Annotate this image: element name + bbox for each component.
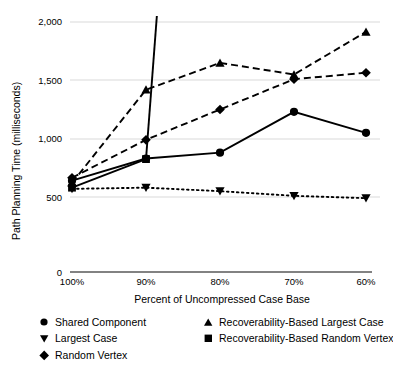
x-tick-80: 80%	[210, 276, 230, 287]
data-point-3-4	[361, 28, 370, 36]
data-point-4-0	[68, 184, 76, 192]
legend-item-random-vertex[interactable]: Random Vertex	[39, 349, 128, 361]
y-tick-1500: 1,500	[38, 75, 62, 86]
data-point-0-3	[290, 108, 298, 116]
legend-item-shared-component[interactable]: Shared Component	[40, 316, 146, 328]
x-axis-tick-labels: 100% 90% 80% 70% 60%	[60, 276, 376, 287]
series-line-4	[72, 159, 146, 188]
series-line-2	[72, 73, 366, 178]
legend-label-0: Shared Component	[55, 316, 146, 328]
x-tick-60: 60%	[356, 276, 376, 287]
data-point-0-2	[216, 149, 224, 157]
x-tick-100: 100%	[60, 276, 85, 287]
legend-item-largest-case[interactable]: Largest Case	[40, 332, 118, 344]
y-tick-500: 500	[46, 192, 62, 203]
data-point-2-4	[361, 68, 371, 78]
legend-label-4: Random Vertex	[55, 349, 128, 361]
y-axis-title: Path Planning Time (milliseconds)	[10, 82, 22, 240]
triangle-up-marker-icon	[204, 318, 212, 325]
legend-label-3: Recoverability-Based Random Vertex	[219, 332, 393, 344]
triangle-down-marker-icon	[40, 335, 48, 342]
data-point-2-1	[141, 135, 151, 145]
x-axis-title: Percent of Uncompressed Case Base	[134, 293, 310, 305]
legend-label-2: Largest Case	[55, 332, 118, 344]
y-axis-tick-labels: 2,000 1,500 1,000 500 0	[38, 16, 62, 278]
data-point-4-1	[142, 155, 150, 163]
diamond-marker-icon	[39, 351, 49, 361]
legend-item-recoverability-based-random-vertex[interactable]: Recoverability-Based Random Vertex	[205, 332, 393, 344]
x-tick-70: 70%	[284, 276, 304, 287]
chart-svg: 2,000 1,500 1,000 500 0 Path Planning Ti…	[0, 0, 393, 372]
legend-item-recoverability-based-largest-case[interactable]: Recoverability-Based Largest Case	[204, 316, 384, 328]
chart-figure: 2,000 1,500 1,000 500 0 Path Planning Ti…	[0, 0, 393, 372]
x-tick-90: 90%	[136, 276, 156, 287]
marker-layer	[67, 28, 371, 203]
legend-label-1: Recoverability-Based Largest Case	[219, 316, 384, 328]
legend: Shared Component Recoverability-Based La…	[39, 316, 393, 361]
y-tick-2000: 2,000	[38, 16, 62, 27]
data-point-0-4	[362, 129, 370, 137]
square-marker-icon	[205, 335, 212, 342]
circle-marker-icon	[40, 318, 47, 325]
data-point-2-2	[215, 105, 225, 115]
y-tick-1000: 1,000	[38, 133, 62, 144]
